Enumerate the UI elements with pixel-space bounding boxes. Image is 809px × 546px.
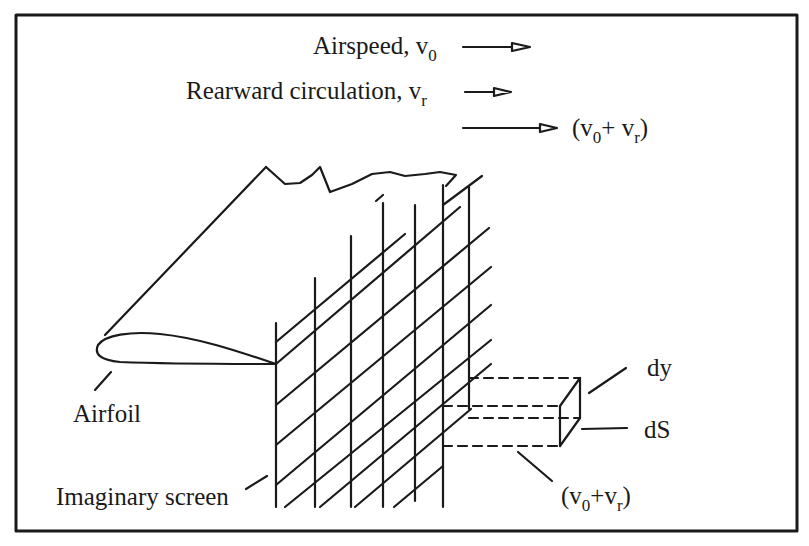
rearward-arrow-icon: [465, 88, 511, 96]
dy-leader-line: [589, 368, 626, 393]
rearward-circulation-label: Rearward circulation, vr: [186, 78, 427, 103]
bottom-sum-label: (v0+vr): [561, 483, 631, 508]
airspeed-label: Airspeed, v0: [313, 33, 437, 58]
screen-leader-line: [246, 476, 267, 489]
sum-velocity-label: (v0+ vr): [572, 115, 648, 140]
imaginary-screen-grid: [276, 176, 491, 507]
sum-leader-line: [518, 452, 552, 481]
dy-label: dy: [647, 355, 672, 380]
sum-arrow-icon: [463, 124, 557, 132]
imaginary-screen-label: Imaginary screen: [56, 484, 229, 509]
airfoil-leader-line: [95, 372, 111, 390]
airfoil-label: Airfoil: [73, 401, 141, 426]
airfoil-circulation-diagram: Airspeed, v0 Rearward circulation, vr (v…: [0, 0, 809, 546]
ds-leader-line: [582, 428, 627, 429]
airspeed-arrow-icon: [463, 43, 530, 51]
ds-label: dS: [644, 417, 670, 442]
